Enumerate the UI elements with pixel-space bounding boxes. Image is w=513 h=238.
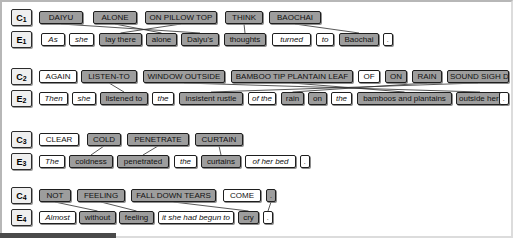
concept-token[interactable]: LISTEN-TO — [81, 70, 137, 83]
english-token[interactable]: bamboos and plantains — [357, 92, 452, 105]
english-token[interactable]: on — [308, 92, 327, 105]
english-token[interactable]: she — [69, 33, 94, 46]
alignment-link — [121, 24, 182, 33]
alignment-link — [91, 146, 104, 155]
concept-token[interactable]: OF — [358, 70, 380, 83]
english-token[interactable]: Then — [39, 92, 68, 105]
english-token[interactable]: alone — [146, 33, 177, 46]
concept-token[interactable]: NOT — [39, 189, 71, 202]
alignment-link — [295, 24, 359, 33]
english-token[interactable]: Baochai — [339, 33, 379, 46]
concept-token[interactable]: COME — [223, 189, 261, 202]
english-token[interactable]: it she had begun to — [158, 211, 234, 224]
concept-token[interactable]: AGAIN — [39, 70, 77, 83]
alignment-link — [184, 83, 480, 92]
alignment-link — [109, 83, 124, 92]
english-token[interactable]: she — [72, 92, 96, 105]
alignment-link — [55, 202, 98, 211]
english-token[interactable]: . — [383, 33, 393, 46]
row-label-index: 3 — [23, 160, 27, 167]
concept-token[interactable]: ALONE — [93, 11, 137, 24]
english-token[interactable]: curtains — [201, 155, 241, 168]
concept-token[interactable]: BAOCHAI — [269, 11, 321, 24]
english-token[interactable]: outside her window — [456, 92, 504, 105]
row-label-index: 4 — [23, 194, 27, 201]
concept-token[interactable]: FEELING — [77, 189, 125, 202]
alignment-link — [115, 24, 162, 33]
english-token[interactable]: of the — [248, 92, 276, 105]
concept-token[interactable]: PENETRATE — [127, 133, 189, 146]
concept-token[interactable]: THINK — [225, 11, 263, 24]
concept-token[interactable]: BAMBOO TIP PLANTAIN LEAF — [231, 70, 353, 83]
english-token[interactable]: without — [79, 211, 116, 224]
english-token[interactable]: the — [331, 92, 352, 105]
alignment-link — [101, 202, 137, 211]
alignment-link — [292, 83, 405, 92]
row-label-index: 2 — [23, 97, 27, 104]
row-label-index: 2 — [23, 75, 27, 82]
row-label-index: 4 — [23, 216, 27, 223]
english-token[interactable]: to — [316, 33, 334, 46]
concept-token[interactable]: FALL DOWN TEARS — [131, 189, 216, 202]
concept-token[interactable]: CURTAIN — [195, 133, 243, 146]
english-token[interactable]: penetrated — [117, 155, 169, 168]
english-token[interactable]: The — [39, 155, 65, 168]
english-token[interactable]: the — [152, 92, 174, 105]
alignment-link — [293, 83, 428, 92]
english-token[interactable]: feeling — [119, 211, 154, 224]
concept-token[interactable]: DAIYU — [39, 11, 83, 24]
row-label-concept-3: C3 — [11, 131, 32, 148]
concept-token[interactable]: RAIN — [412, 70, 442, 83]
english-token[interactable]: thoughts — [224, 33, 266, 46]
concept-token[interactable]: ON — [385, 70, 407, 83]
row-label-concept-4: C4 — [11, 187, 32, 204]
row-label-concept-1: C1 — [11, 9, 32, 26]
english-token[interactable]: cry — [238, 211, 259, 224]
english-token[interactable]: coldness — [69, 155, 113, 168]
english-token[interactable]: . — [300, 155, 310, 168]
alignment-link — [244, 24, 245, 33]
concept-token[interactable]: ON PILLOW TOP — [145, 11, 217, 24]
english-token[interactable]: insistent rustle — [179, 92, 243, 105]
english-token[interactable]: . — [499, 92, 509, 105]
row-label-english-3: E3 — [11, 153, 32, 170]
row-label-index: 1 — [23, 16, 27, 23]
concept-token[interactable]: WINDOW OUTSIDE — [143, 70, 225, 83]
alignment-diagram-canvas: C1E1DAIYUALONEON PILLOW TOPTHINKBAOCHAIA… — [0, 0, 513, 238]
row-label-index: 1 — [23, 38, 27, 45]
concept-token[interactable]: SOUND SIGH DRIP — [447, 70, 509, 83]
alignment-link — [61, 24, 200, 33]
english-token[interactable]: . — [263, 211, 273, 224]
english-token[interactable]: rain — [281, 92, 304, 105]
row-label-index: 3 — [23, 138, 27, 145]
alignment-link — [143, 146, 158, 155]
english-token[interactable]: Daiyu's — [181, 33, 219, 46]
english-token[interactable]: Almost — [39, 211, 76, 224]
row-label-english-2: E2 — [11, 90, 32, 107]
alignment-link — [268, 202, 271, 211]
alignment-link — [174, 202, 249, 211]
alignment-link — [219, 146, 221, 155]
row-label-concept-2: C2 — [11, 68, 32, 85]
english-token[interactable]: As — [41, 33, 65, 46]
row-label-english-4: E4 — [11, 209, 32, 226]
row-label-english-1: E1 — [11, 31, 32, 48]
english-token[interactable]: lay there — [99, 33, 142, 46]
concept-token[interactable]: COLD — [87, 133, 121, 146]
english-token[interactable]: the — [174, 155, 197, 168]
english-token[interactable]: turned — [272, 33, 311, 46]
english-token[interactable]: of her bed — [245, 155, 296, 168]
alignment-link — [211, 83, 478, 92]
concept-token[interactable]: . — [266, 189, 276, 202]
concept-token[interactable]: CLEAR — [39, 133, 79, 146]
english-token[interactable]: listened to — [100, 92, 148, 105]
